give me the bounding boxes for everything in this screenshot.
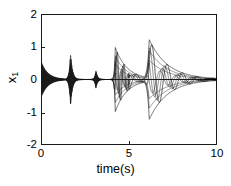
xtick-label-0: 0: [33, 148, 49, 160]
xtick-label-5: 5: [121, 148, 137, 160]
ytick-mark-neg1: [41, 113, 45, 114]
xtick-label-10: 10: [207, 148, 227, 160]
x-axis-label: time(s): [0, 163, 231, 176]
xtick-mark-5: [129, 141, 130, 145]
ytick-label-2: 2: [31, 9, 37, 21]
ytick-label-0: 0: [31, 74, 37, 86]
ytick-mark-1: [41, 47, 45, 48]
figure-canvas: 2 1 0 -1 -2 0 5 10 time(s) x1: [0, 0, 231, 186]
y-axis-label-base: x: [4, 77, 19, 84]
ytick-label-neg1: -1: [27, 107, 37, 119]
ytick-label-1: 1: [31, 41, 37, 53]
y-axis-label: x1: [5, 58, 18, 98]
y-axis-label-subscript: 1: [10, 72, 20, 77]
signal-plot: [41, 14, 217, 145]
ytick-mark-0: [41, 80, 45, 81]
